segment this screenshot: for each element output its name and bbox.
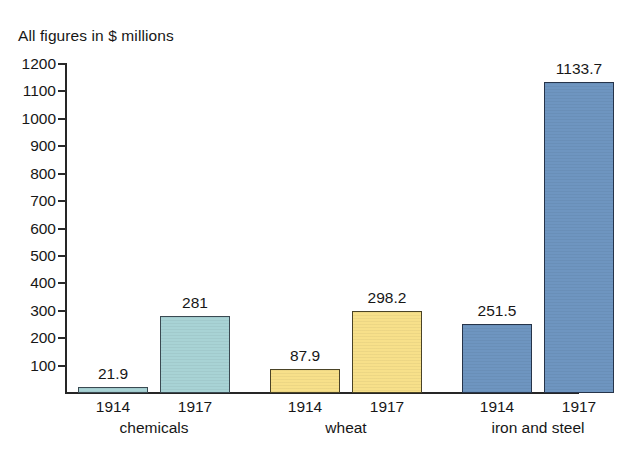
bar-value-label: 21.9 (98, 365, 128, 383)
bar (462, 324, 532, 393)
bar-value-label: 1133.7 (556, 60, 602, 78)
group-label: iron and steel (491, 419, 584, 437)
bar (352, 311, 422, 393)
bar-value-label: 251.5 (478, 302, 517, 320)
bar-chart: All figures in $ millions 12001100100090… (0, 0, 617, 450)
group-label: wheat (325, 419, 366, 437)
bar-value-label: 281 (182, 294, 208, 312)
group-label: chemicals (120, 419, 189, 437)
bar-year-label: 1914 (288, 398, 322, 416)
bar-value-label: 298.2 (368, 289, 407, 307)
bar (78, 387, 148, 393)
plot-area: 120011001000900800700600500400300200100 … (0, 0, 617, 450)
bars-layer (0, 0, 617, 393)
bar-year-label: 1917 (178, 398, 212, 416)
bar-year-label: 1917 (562, 398, 596, 416)
bar (270, 369, 340, 393)
bar-year-label: 1914 (96, 398, 130, 416)
bar (160, 316, 230, 393)
bar (544, 82, 614, 393)
bar-year-label: 1914 (480, 398, 514, 416)
bar-year-label: 1917 (370, 398, 404, 416)
bar-value-label: 87.9 (290, 347, 320, 365)
